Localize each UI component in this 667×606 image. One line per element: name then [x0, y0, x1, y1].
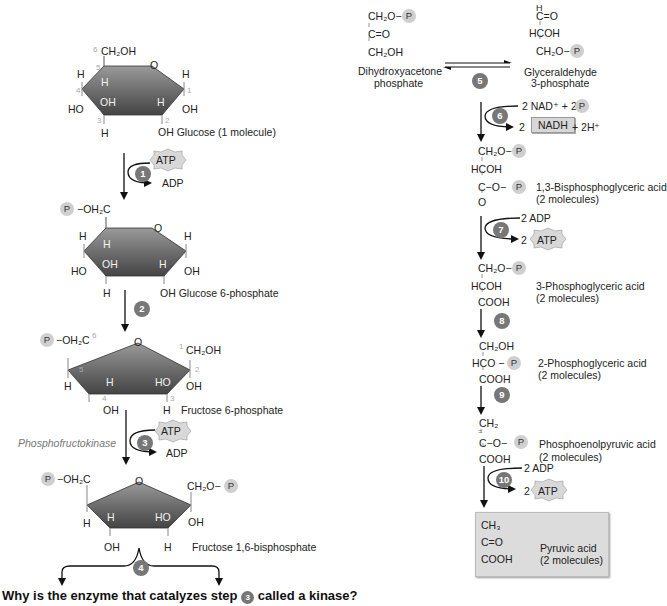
question-before: Why is the enzyme that catalyzes step	[2, 588, 238, 603]
phosphate-icon: P	[512, 144, 526, 158]
question-text: Why is the enzyme that catalyzes step 3 …	[2, 588, 358, 604]
pg2-count: (2 molecules)	[538, 369, 601, 381]
h-plus-label: + 2H⁺	[572, 121, 600, 133]
phosphate-icon: P	[575, 99, 589, 113]
atp-label-step10: ATP	[538, 485, 558, 497]
g3p-line-3: HCOH	[529, 27, 560, 39]
dhap-line-3: CH₂OH	[368, 46, 403, 58]
adp-input-step7: 2 ADP	[521, 212, 551, 224]
sub-h-c5: H	[83, 517, 91, 529]
sub-h-right: H	[184, 230, 192, 242]
sub-oh-c3: OH	[102, 258, 118, 270]
dhap-line-2: C=O	[368, 28, 390, 40]
carbon-number-6: 6	[92, 331, 96, 340]
phosphate-icon: P	[60, 202, 74, 216]
ring-oxygen: O	[150, 59, 158, 71]
carbon-number-4: 4	[102, 394, 106, 403]
pg3-name: 3-Phosphoglyceric acid	[536, 280, 645, 292]
step-badge-3: 3	[137, 435, 153, 451]
bpg13-count: (2 molecules)	[536, 193, 599, 205]
phosphate-icon: P	[507, 356, 521, 370]
step-badge-4: 4	[133, 560, 149, 576]
sub-h-c3: H	[163, 404, 171, 416]
step-badge-7: 7	[493, 222, 509, 238]
step-badge-2: 2	[134, 301, 150, 317]
glucose6p-label: OH Glucose 6-phosphate	[160, 287, 278, 299]
sub-h-c5: H	[101, 76, 109, 88]
pg2-line-1: CH₂OH	[479, 340, 514, 352]
pep-line-2: C−O−	[479, 437, 507, 449]
bpg13-line-2: HCOH	[471, 163, 502, 175]
g3p-line-2: C=O	[536, 10, 558, 22]
dhap-line-1: CH₂O−	[368, 10, 402, 22]
step-badge-10: 10	[496, 472, 512, 488]
nadh-count: 2	[519, 121, 525, 133]
pep-name: Phosphoenolpyruvic acid	[539, 438, 656, 450]
sub-oh-c2: OH	[186, 380, 202, 392]
pg3-line-2: HCOH	[471, 280, 502, 292]
atp-label-step1: ATP	[156, 154, 176, 166]
sub-h-c5: H	[64, 380, 72, 392]
carbon-number-3: 3	[97, 116, 101, 125]
carbon-number-1: 1	[187, 86, 191, 95]
atp-label-step7: ATP	[537, 234, 557, 246]
sub-ho-left: HO	[71, 265, 87, 277]
nadh-box: NADH	[531, 117, 575, 133]
fructose16bp-ring	[87, 482, 191, 536]
step-badge-6: 6	[492, 108, 508, 124]
question-after: called a kinase?	[258, 588, 358, 603]
sub-h-c4: H	[107, 511, 115, 523]
pyruvate-line-3: COOH	[481, 553, 513, 565]
sub-h-c3: H	[164, 541, 172, 553]
glucose-label: OH Glucose (1 molecule)	[158, 126, 276, 138]
phosphate-icon: P	[41, 472, 55, 486]
sub-h-c2: H	[159, 258, 167, 270]
phosphate-icon: P	[570, 44, 584, 58]
enzyme-label-phosphofructokinase: Phosphofructokinase	[18, 437, 116, 449]
sub-ho-c3: HO	[155, 376, 171, 388]
step5-equilibrium-arrows	[443, 60, 512, 70]
pg2-line-3: COOH	[479, 373, 511, 385]
pyruvate-line-2: C=O	[481, 536, 503, 548]
g3p-name-2: 3-phosphate	[531, 77, 589, 89]
sub-h-c5: H	[103, 238, 111, 250]
bpg13-line-1: CH₂O−	[478, 145, 512, 157]
bpg13-name: 1,3-Bisphosphoglyceric acid	[536, 181, 667, 193]
phosphate-icon: P	[514, 435, 528, 449]
dhap-name-2: phosphate	[374, 77, 423, 89]
carbon-number-3: 3	[170, 394, 174, 403]
atp-label-step3: ATP	[161, 425, 181, 437]
atp-count-step7: 2	[521, 234, 527, 246]
pg3-line-3: COOH	[478, 296, 510, 308]
phosphate-icon: P	[224, 479, 238, 493]
bpg13-line-4: O	[478, 196, 486, 208]
sub-ho-left: HO	[68, 103, 84, 115]
c6-group: −OH₂C	[77, 203, 111, 215]
c6-group: CH₂OH	[101, 45, 136, 57]
sub-oh-c4: OH	[104, 541, 120, 553]
sub-h-c2: H	[157, 96, 165, 108]
c6-group: −OH₂C	[56, 334, 90, 346]
bpg13-line-3: C−O−	[478, 181, 506, 193]
ring-oxygen: O	[154, 222, 162, 234]
carbon-number-1: 1	[179, 342, 183, 351]
ring-oxygen: O	[134, 336, 142, 348]
sub-oh-c2: OH	[188, 516, 204, 528]
pyruvate-line-1: CH₃	[481, 519, 500, 531]
phosphate-icon: P	[402, 9, 416, 23]
pg2-line-2: HCO −	[472, 357, 504, 369]
question-step-badge: 3	[241, 591, 254, 604]
sub-h-left: H	[77, 68, 85, 80]
phosphate-icon: P	[512, 261, 526, 275]
sub-h-bottom: H	[103, 287, 111, 299]
ring-oxygen: O	[135, 475, 143, 487]
carbon-number-5: 5	[79, 365, 83, 374]
bond-ticks	[369, 21, 540, 548]
sub-oh-right: OH	[182, 103, 198, 115]
carbon-number-2: 2	[165, 116, 169, 125]
step-badge-5: 5	[472, 73, 488, 89]
carbon-number-6: 6	[93, 45, 97, 54]
step-badge-9: 9	[494, 387, 510, 403]
step-badge-1: 1	[135, 166, 151, 182]
c1-group: CH₂O−	[187, 480, 221, 492]
